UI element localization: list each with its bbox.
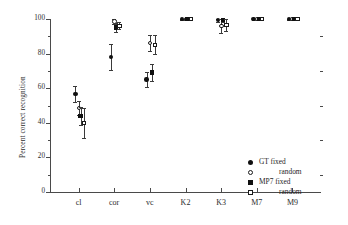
- x-tick: [150, 188, 151, 192]
- x-tick: [186, 188, 187, 192]
- error-cap-lower: [148, 51, 152, 52]
- y-tick-label: 60: [20, 83, 45, 91]
- x-tick-label: M9: [272, 198, 312, 207]
- error-cap-lower: [219, 33, 223, 34]
- error-cap-upper: [224, 19, 228, 20]
- y-tick-major: [46, 88, 50, 89]
- data-point-open-square: [189, 17, 193, 21]
- y-tick-major: [46, 54, 50, 55]
- error-cap-upper: [145, 72, 149, 73]
- legend-marker-open-square: [248, 190, 253, 195]
- x-tick: [257, 188, 258, 192]
- legend-label: GT fixed: [259, 157, 286, 166]
- data-point-open-square: [117, 24, 121, 28]
- data-point-open-square: [260, 17, 264, 21]
- error-cap-upper: [73, 86, 77, 87]
- y-tick-minor: [48, 36, 51, 37]
- y-tick-label: 20: [20, 152, 45, 160]
- x-tick-label: K3: [201, 198, 241, 207]
- data-point-open-square: [153, 43, 157, 47]
- y-tick-label: 0: [20, 187, 45, 195]
- y-tick-minor: [48, 175, 51, 176]
- data-point-open-square: [82, 121, 86, 125]
- y-tick-minor-right: [320, 36, 323, 37]
- legend-label: MP7 fixed: [259, 177, 290, 186]
- y-tick-label: 80: [20, 49, 45, 57]
- legend-marker-filled-circle: [248, 160, 253, 165]
- error-cap-upper: [153, 35, 157, 36]
- x-tick-label: vc: [130, 198, 170, 207]
- y-tick-major: [46, 192, 50, 193]
- data-point-filled-square: [78, 114, 82, 118]
- data-point-open-square: [224, 23, 228, 27]
- y-tick-minor: [48, 106, 51, 107]
- x-tick-label: cl: [59, 198, 99, 207]
- error-cap-lower: [150, 81, 154, 82]
- x-tick: [114, 188, 115, 192]
- error-cap-lower: [114, 32, 118, 33]
- error-cap-upper: [109, 44, 113, 45]
- y-tick-label: 40: [20, 118, 45, 126]
- x-tick-label: K2: [166, 198, 206, 207]
- y-tick-major: [46, 157, 50, 158]
- data-point-open-circle: [219, 24, 223, 28]
- x-tick-label: cor: [94, 198, 134, 207]
- error-cap-upper: [150, 64, 154, 65]
- error-cap-upper: [77, 101, 81, 102]
- error-cap-lower: [82, 138, 86, 139]
- x-tick: [221, 188, 222, 192]
- data-point-filled-circle: [144, 77, 148, 81]
- y-tick-minor-right: [320, 175, 323, 176]
- y-tick-minor-right: [320, 71, 323, 72]
- y-tick-minor: [48, 140, 51, 141]
- legend-marker-filled-square: [248, 180, 253, 185]
- legend-marker-open-circle: [248, 170, 253, 175]
- error-cap-lower: [153, 54, 157, 55]
- y-tick-major: [46, 19, 50, 20]
- x-tick: [79, 188, 80, 192]
- error-cap-upper: [148, 35, 152, 36]
- error-cap-lower: [117, 29, 121, 30]
- y-tick-label: 100: [20, 14, 45, 22]
- data-point-filled-circle: [109, 55, 113, 59]
- y-tick-major: [46, 123, 50, 124]
- x-tick-label: M7: [237, 198, 277, 207]
- y-tick-minor: [48, 71, 51, 72]
- data-point-filled-square: [150, 70, 154, 74]
- data-point-open-circle: [148, 41, 152, 45]
- error-cap-lower: [224, 31, 228, 32]
- error-cap-upper: [82, 108, 86, 109]
- error-cap-lower: [145, 87, 149, 88]
- error-cap-lower: [73, 102, 77, 103]
- legend-label: random: [279, 167, 302, 176]
- data-point-filled-circle: [73, 92, 77, 96]
- scatter-plot-figure: Percent correct recognition 020406080100…: [0, 0, 348, 225]
- y-tick-minor-right: [320, 140, 323, 141]
- data-point-open-square: [295, 17, 299, 21]
- legend-label: random: [279, 187, 302, 196]
- y-tick-minor-right: [320, 106, 323, 107]
- error-cap-lower: [109, 70, 113, 71]
